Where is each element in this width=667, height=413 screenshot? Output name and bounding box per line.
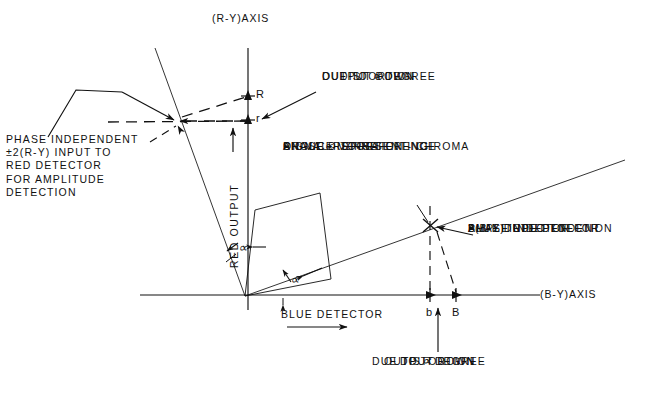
dashed-intersection-to-R	[182, 97, 246, 117]
callout-red-input-line2: ±2(R-Y) INPUT TO	[6, 146, 138, 159]
leader-angle-explain	[417, 205, 428, 222]
dashed-stub-red	[150, 126, 176, 142]
tick-label-b: b	[426, 306, 433, 318]
callout-red-input: PHASE INDEPENDENT ±2(R-Y) INPUT TO RED D…	[6, 133, 138, 199]
distorted-axes	[155, 48, 625, 296]
angle-arrow-blue-right	[303, 268, 322, 276]
angle-symbol-blue: ∝	[290, 272, 299, 288]
r-y-axis-label: (R-Y)AXIS	[212, 12, 269, 25]
diagram-root: (R-Y)AXIS (B-Y)AXIS RED OUTPUT BLUE DETE…	[0, 0, 667, 413]
tick-b-arrow	[426, 291, 436, 299]
b-y-axis-label: (B-Y)AXIS	[540, 288, 597, 301]
tick-label-R: R	[256, 88, 264, 100]
callout-output-down-bottom-line3: DISTORTION	[400, 355, 475, 368]
tick-label-B: B	[452, 306, 460, 318]
callout-angle-explain-line4: OR VICE VERSA	[283, 140, 379, 153]
tick-R-arrow	[244, 90, 252, 100]
callout-red-input-line3: RED DETECTOR	[6, 159, 138, 172]
leader-red-input	[48, 90, 122, 137]
leader-red-input-arrow	[122, 92, 174, 120]
callout-red-input-line5: DETECTION	[6, 186, 138, 199]
angle-symbol-red: ∝	[238, 240, 247, 256]
arrow-up-into-intersection-red	[178, 126, 186, 140]
tick-label-r: r	[256, 112, 260, 124]
tick-B-arrow	[452, 291, 462, 299]
callout-red-input-line4: FOR AMPLITUDE	[6, 173, 138, 186]
blue-detector-label: BLUE DETECTOR	[281, 308, 383, 321]
callout-output-down-top-line3: DISTORTION	[340, 70, 415, 83]
axis-lines	[140, 48, 540, 310]
dashed-B-slant	[437, 232, 456, 292]
tick-r-arrow	[244, 114, 252, 124]
leader-output-down-top	[262, 92, 316, 119]
blue-construction-lines	[423, 206, 473, 293]
callout-red-input-line1: PHASE INDEPENDENT	[6, 133, 138, 146]
callout-blue-input-line4: AMPLITUDE DETECTION	[468, 222, 613, 235]
vector-canvas	[0, 0, 667, 413]
